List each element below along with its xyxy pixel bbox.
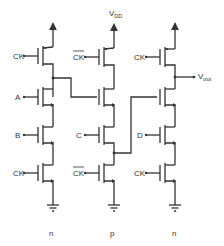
transistor-col2-ckbar — [84, 47, 114, 89]
ground-icon — [169, 205, 181, 211]
transistor-col3-input — [160, 87, 176, 127]
label-ck: CK — [134, 169, 146, 178]
transistor-col2-c — [84, 125, 114, 165]
label-d: D — [137, 131, 143, 140]
label-ckbar: CK — [73, 169, 85, 178]
circuit-diagram: CK A B CK n VDD — [0, 0, 224, 246]
label-a: A — [15, 93, 21, 102]
label-vout: Vout — [198, 72, 211, 82]
column-3-n: Vout — [134, 26, 211, 238]
transistor-col3-d — [145, 125, 176, 165]
ground-icon — [47, 205, 59, 211]
label-b: B — [15, 131, 20, 140]
transistor-col3-ck — [145, 47, 175, 89]
transistor-col2-ckbar-bottom — [84, 163, 115, 205]
transistor-col1-b — [23, 125, 54, 165]
label-vdd: VDD — [109, 9, 122, 19]
transistor-col1-a — [23, 87, 54, 127]
label-ckbar: CK — [73, 53, 85, 62]
transistor-col1-ck-bottom — [23, 163, 54, 205]
transistor-col3-ck-bottom — [145, 163, 176, 205]
label-ck: CK — [13, 52, 25, 61]
ground-icon — [108, 205, 120, 211]
label-c: C — [76, 131, 82, 140]
label-column-n: n — [49, 229, 53, 238]
label-column-n: n — [172, 229, 176, 238]
label-column-p: p — [110, 229, 115, 238]
column-2-p: VDD — [73, 9, 157, 238]
label-ck: CK — [134, 53, 146, 62]
label-ck: CK — [13, 169, 25, 178]
transistor-col2-input — [99, 87, 115, 127]
